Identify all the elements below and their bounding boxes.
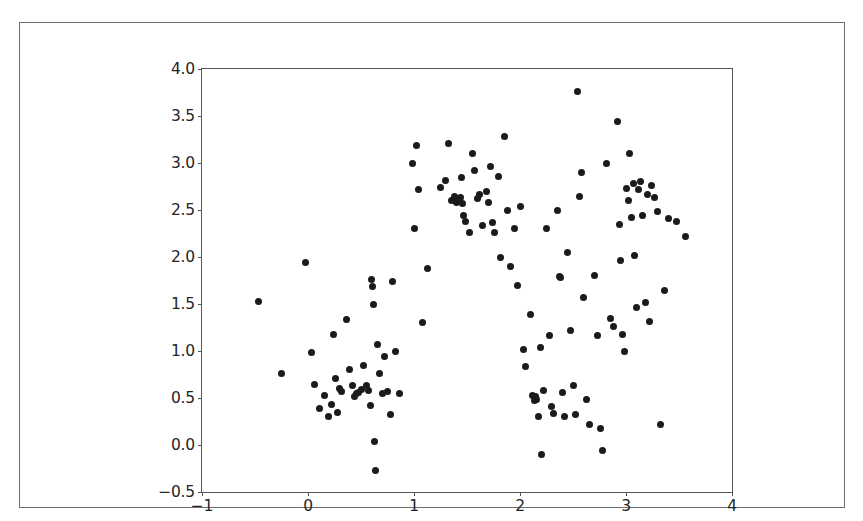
scatter-point [485,199,492,206]
y-tick-mark [198,351,202,352]
scatter-point [419,319,426,326]
scatter-point [639,212,646,219]
scatter-point [311,381,318,388]
scatter-point [574,88,581,95]
scatter-point [415,186,422,193]
scatter-point [372,467,379,474]
scatter-point [387,411,394,418]
scatter-point [445,140,452,147]
x-tick-mark [626,492,627,496]
screenshot-page: −0.50.00.51.01.52.02.53.03.54.0 −101234 [0,0,863,521]
scatter-point [424,265,431,272]
x-tick-label: 2 [515,497,525,515]
scatter-point [538,451,545,458]
scatter-point [367,402,374,409]
scatter-point [548,403,555,410]
scatter-point [278,370,285,377]
scatter-point [661,287,668,294]
scatter-point [646,318,653,325]
scatter-point [628,214,635,221]
figure-frame: −0.50.00.51.01.52.02.53.03.54.0 −101234 [19,22,845,508]
scatter-point [578,169,585,176]
scatter-point [514,282,521,289]
scatter-point [532,393,539,400]
scatter-point [576,193,583,200]
scatter-point [365,387,372,394]
scatter-point [343,316,350,323]
scatter-point [437,184,444,191]
y-tick-label: 1.5 [171,295,195,313]
scatter-point [370,301,377,308]
scatter-point [308,349,315,356]
scatter-point [614,118,621,125]
scatter-point [338,388,345,395]
scatter-point [381,353,388,360]
scatter-point [469,150,476,157]
scatter-point [497,254,504,261]
y-tick-mark [198,116,202,117]
x-tick-mark [414,492,415,496]
scatter-point [633,304,640,311]
y-tick-mark [198,163,202,164]
scatter-point [321,392,328,399]
scatter-point [665,215,672,222]
scatter-point [583,396,590,403]
scatter-point [535,413,542,420]
x-tick-label: 4 [727,497,737,515]
scatter-point [626,150,633,157]
scatter-point [616,221,623,228]
scatter-point [580,294,587,301]
scatter-point [369,283,376,290]
y-tick-mark [198,69,202,70]
x-tick-label: −1 [191,497,213,515]
scatter-point [654,208,661,215]
scatter-point [368,276,375,283]
scatter-point [559,389,566,396]
y-tick-label: 0.5 [171,389,195,407]
scatter-point [540,387,547,394]
scatter-point [607,315,614,322]
scatter-point [637,178,644,185]
y-tick-label: 2.0 [171,248,195,266]
scatter-point [610,323,617,330]
scatter-point [546,332,553,339]
scatter-point [651,194,658,201]
scatter-point [673,218,680,225]
scatter-point [413,142,420,149]
y-tick-mark [198,304,202,305]
scatter-point [591,272,598,279]
scatter-point [411,225,418,232]
scatter-point [489,219,496,226]
scatter-point [504,207,511,214]
scatter-point [543,225,550,232]
scatter-point [572,411,579,418]
scatter-point [657,421,664,428]
scatter-point [466,229,473,236]
scatter-point [360,362,367,369]
scatter-point [495,173,502,180]
y-tick-label: 0.0 [171,436,195,454]
y-tick-mark [198,398,202,399]
y-tick-mark [198,210,202,211]
scatter-point [550,410,557,417]
scatter-point [599,447,606,454]
scatter-point [537,344,544,351]
scatter-point [517,203,524,210]
scatter-point [644,191,651,198]
scatter-point [471,167,478,174]
scatter-point [371,438,378,445]
scatter-point [458,174,465,181]
scatter-point [332,375,339,382]
scatter-point [487,163,494,170]
scatter-point [302,259,309,266]
scatter-point [374,341,381,348]
scatter-point [462,218,469,225]
scatter-point [316,405,323,412]
scatter-point [554,207,561,214]
scatter-point [479,222,486,229]
scatter-point [594,332,601,339]
scatter-point [522,363,529,370]
scatter-point [334,409,341,416]
scatter-point [648,182,655,189]
scatter-point [567,327,574,334]
